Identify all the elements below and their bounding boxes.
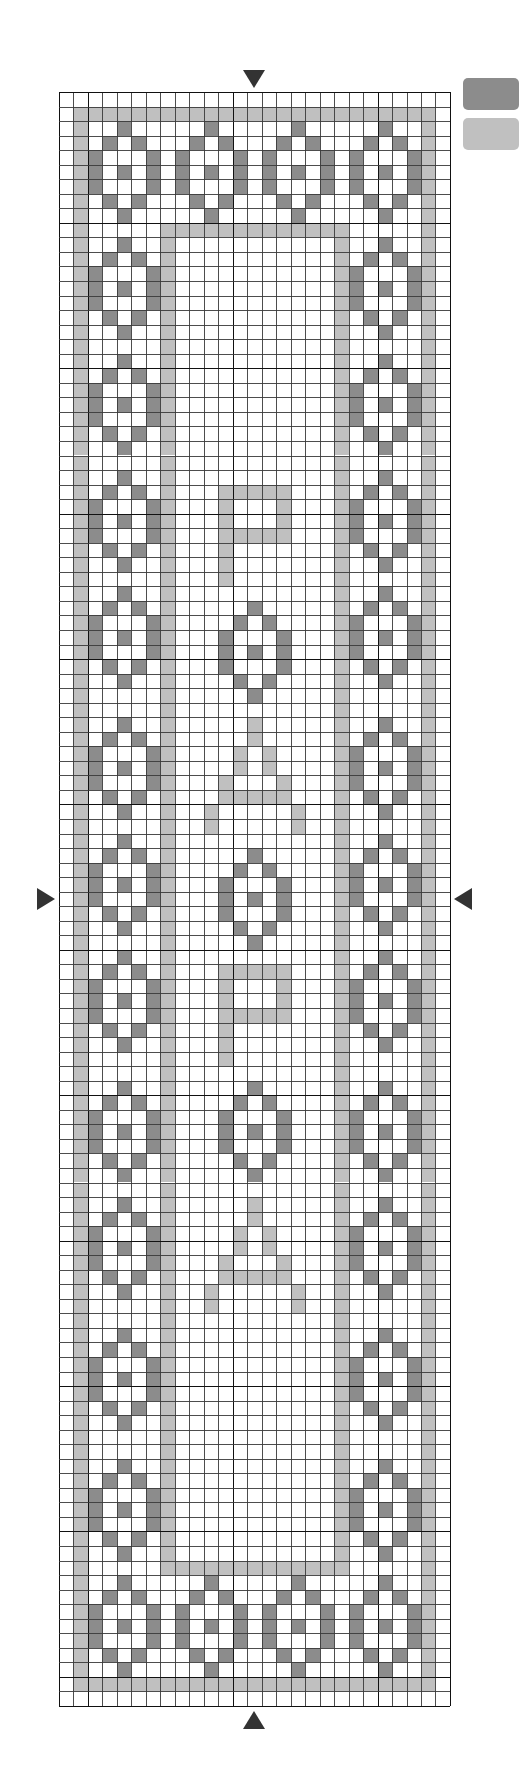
- center-marker-top-icon: [243, 70, 265, 88]
- legend-swatch-dark: Dark gray thread: [463, 78, 519, 110]
- center-marker-bottom-icon: [243, 1711, 265, 1729]
- center-marker-right-icon: [454, 888, 472, 910]
- center-marker-left-icon: [37, 888, 55, 910]
- grid-lines: [59, 92, 451, 1707]
- legend-swatch-light: Light gray thread: [463, 118, 519, 150]
- stitch-chart: [59, 92, 450, 1706]
